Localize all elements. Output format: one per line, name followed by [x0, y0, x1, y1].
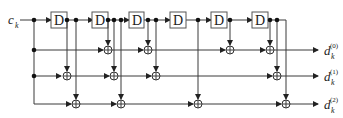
delay-block-1: D [51, 12, 67, 28]
adder-icon [144, 46, 152, 54]
output-label-1: d k (1) [324, 68, 339, 87]
adder-icon [63, 72, 71, 80]
adder-icon [72, 100, 80, 108]
adder-icon [104, 46, 112, 54]
output-row-0: d k (0) [104, 42, 339, 61]
output-row-2: d k (2) [72, 96, 339, 115]
adder-icon [266, 46, 274, 54]
adder-icon [194, 100, 202, 108]
svg-text:D: D [95, 13, 105, 28]
input-label: c k [8, 12, 19, 30]
delay-block-2: D [92, 12, 108, 28]
svg-text:D: D [173, 13, 183, 28]
svg-text:k: k [15, 21, 19, 30]
svg-text:(0): (0) [330, 42, 339, 50]
svg-text:(2): (2) [330, 96, 339, 104]
svg-text:D: D [54, 13, 64, 28]
delay-block-6: D [252, 12, 268, 28]
delay-block-3: D [129, 12, 144, 28]
adder-icon [110, 72, 118, 80]
tap-lines [67, 20, 286, 99]
svg-text:k: k [331, 106, 335, 115]
adder-icon [152, 72, 160, 80]
delay-block-4: D [170, 12, 186, 28]
svg-text:k: k [331, 52, 335, 61]
adder-icon [117, 100, 125, 108]
adder-icon [273, 72, 281, 80]
delay-block-5: D [211, 12, 227, 28]
output-label-2: d k (2) [324, 96, 339, 115]
svg-text:(1): (1) [330, 68, 339, 76]
svg-text:c: c [8, 12, 14, 27]
adder-icon [282, 100, 290, 108]
output-label-0: d k (0) [324, 42, 339, 61]
convolutional-encoder-diagram: c k D D D D D D [0, 0, 343, 118]
input-bus [34, 20, 103, 104]
svg-text:D: D [255, 13, 265, 28]
adder-icon [226, 46, 234, 54]
svg-text:D: D [214, 13, 224, 28]
svg-text:D: D [132, 13, 142, 28]
svg-text:k: k [331, 78, 335, 87]
output-row-1: d k (1) [63, 68, 339, 87]
